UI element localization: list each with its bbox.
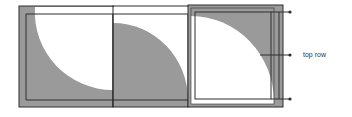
tick-marker-top — [288, 10, 291, 13]
panel-1 — [19, 6, 113, 107]
tick-marker-middle — [288, 53, 291, 56]
panel-3 — [188, 5, 283, 107]
tiling-diagram — [0, 0, 352, 117]
tick-marker-bottom — [288, 97, 291, 100]
panel-2 — [113, 6, 188, 107]
bracket-label: top row — [303, 51, 326, 58]
top-strip — [35, 7, 188, 14]
